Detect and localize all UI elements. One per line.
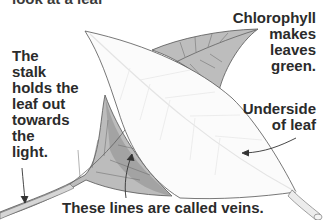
underside-label: Underside of leaf — [243, 101, 316, 133]
stalk-label: The stalk holds the leaf out towards the… — [12, 48, 79, 160]
chlorophyll-label: Chlorophyll makes leaves green. — [233, 10, 316, 74]
diagram-title: look at a leaf — [12, 0, 103, 7]
stalk-arrow — [22, 168, 25, 200]
veins-label: These lines are called veins. — [62, 200, 264, 216]
leaf-diagram: look at a leaf The stalk holds the leaf … — [0, 0, 328, 220]
